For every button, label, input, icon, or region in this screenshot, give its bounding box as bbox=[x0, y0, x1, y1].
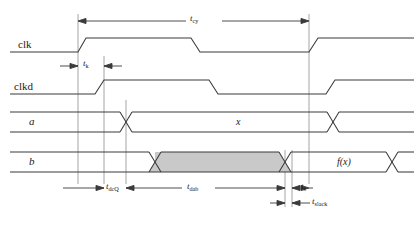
bus-value-a: x bbox=[236, 117, 240, 127]
timing-diagram-canvas bbox=[0, 0, 416, 226]
t-k-arrowhead-right bbox=[104, 63, 112, 68]
t-cy-arrowhead-left bbox=[78, 18, 86, 23]
t-s-sub: s bbox=[304, 185, 306, 192]
t-dab-arrowhead-right bbox=[277, 185, 285, 190]
timing-diagram-figure: clk clkd a b x f(x) tcy tk tdcQ tdab ts … bbox=[0, 0, 416, 226]
timing-label-t-s: ts bbox=[301, 182, 306, 191]
t-k-arrowhead-left bbox=[70, 63, 78, 68]
t-cy-arrowhead-right bbox=[301, 18, 309, 23]
t-dcQ-sub: dcQ bbox=[109, 185, 119, 192]
dimension-t-dab bbox=[126, 185, 285, 190]
dimension-t-k bbox=[60, 63, 122, 68]
reference-lines bbox=[78, 14, 309, 207]
t-dab-arrowhead-left bbox=[126, 185, 134, 190]
t-slack-arrowhead-right bbox=[292, 200, 300, 205]
t-dab-sub: dab bbox=[190, 185, 199, 192]
waveform-clk bbox=[10, 38, 414, 52]
waveform-b bbox=[10, 152, 414, 172]
timing-label-t-dab: tdab bbox=[187, 182, 198, 191]
t-dcQ-arrowhead bbox=[96, 185, 104, 190]
timing-label-t-slack: tslack bbox=[312, 197, 327, 206]
timing-label-t-dcQ: tdcQ bbox=[106, 182, 119, 191]
t-s-arrowhead-left bbox=[292, 185, 300, 190]
bus-value-b: f(x) bbox=[337, 157, 351, 167]
signal-label-clkd: clkd bbox=[14, 81, 33, 92]
signal-label-b: b bbox=[29, 156, 35, 167]
dimension-t-dcQ bbox=[63, 185, 104, 190]
t-k-sub: k bbox=[86, 62, 89, 69]
timing-label-t-k: tk bbox=[83, 59, 89, 68]
waveform-clkd bbox=[10, 80, 414, 94]
t-cy-sub: cy bbox=[193, 17, 199, 24]
signal-label-clk: clk bbox=[18, 39, 31, 50]
dimension-t-slack bbox=[270, 200, 310, 205]
timing-label-t-cy: tcy bbox=[190, 14, 198, 23]
t-slack-sub: slack bbox=[315, 200, 328, 207]
b-shaded-region bbox=[149, 152, 291, 172]
waveform-a bbox=[10, 112, 414, 132]
t-slack-arrowhead-left bbox=[277, 200, 285, 205]
signal-label-a: a bbox=[29, 116, 35, 127]
